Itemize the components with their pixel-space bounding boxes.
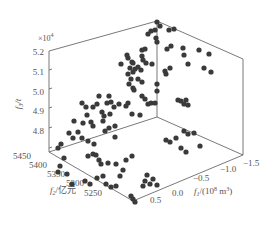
data-point: [113, 161, 118, 166]
data-point: [206, 51, 211, 56]
z-tick-5.0: 5.0: [33, 87, 45, 97]
data-point: [57, 163, 62, 168]
data-point: [127, 65, 132, 70]
data-point: [180, 45, 185, 50]
data-point: [201, 65, 206, 70]
data-point: [120, 167, 125, 172]
z-tick-4.9: 4.9: [33, 106, 45, 116]
data-point: [55, 169, 60, 174]
data-point: [185, 61, 190, 66]
data-point: [93, 152, 98, 157]
data-point: [183, 149, 188, 154]
data-point: [66, 130, 71, 135]
data-point: [83, 104, 88, 109]
data-point: [168, 43, 173, 48]
data-point: [71, 118, 76, 123]
data-point: [90, 123, 95, 128]
data-point: [87, 181, 92, 186]
data-point: [108, 184, 113, 189]
data-point: [142, 46, 147, 51]
z-tick-5.1: 5.1: [33, 67, 44, 77]
data-point: [106, 93, 111, 98]
data-point: [197, 143, 202, 148]
data-point: [101, 113, 106, 118]
data-point: [185, 131, 190, 136]
data-point: [104, 100, 109, 105]
data-point: [152, 27, 157, 32]
data-point: [116, 101, 121, 106]
data-point: [125, 71, 130, 76]
z-axis-ticks: 5.2 5.1 5.0 4.9 4.8 ×104 f3/t: [13, 32, 54, 148]
data-point: [100, 118, 105, 123]
data-point: [167, 139, 172, 144]
top-right-edge: [157, 21, 243, 59]
data-point: [107, 111, 112, 116]
x-axis-label: f1/(108 m3): [194, 186, 232, 197]
data-point: [70, 135, 75, 140]
y-tick-5400: 5400: [29, 160, 48, 170]
data-point: [112, 134, 117, 139]
data-point: [129, 59, 134, 64]
data-point: [64, 171, 69, 176]
data-point: [96, 93, 101, 98]
data-point: [183, 97, 188, 102]
data-point: [79, 100, 84, 105]
data-point: [140, 183, 145, 188]
data-point: [167, 65, 172, 70]
data-point: [85, 153, 90, 158]
data-point: [84, 112, 89, 117]
data-point: [163, 71, 168, 76]
x-axis-ticks: 0.5 0.0 −0.5 −1.0 −1.5 f1/(108 m3): [150, 158, 260, 205]
data-point: [61, 155, 66, 160]
data-point: [118, 61, 123, 66]
data-point: [191, 130, 196, 135]
data-point: [111, 104, 116, 109]
data-point: [154, 39, 159, 44]
data-point: [130, 85, 135, 90]
data-point: [79, 135, 84, 140]
data-point: [90, 104, 95, 109]
data-point: [154, 81, 159, 86]
data-point: [80, 120, 85, 125]
data-point: [154, 182, 159, 187]
data-point: [129, 153, 134, 158]
z-axis-label: f3/t: [13, 98, 24, 109]
data-point: [91, 141, 96, 146]
data-point: [145, 31, 150, 36]
data-point: [173, 135, 178, 140]
data-point: [126, 81, 131, 86]
data-point: [166, 27, 171, 32]
data-point: [152, 100, 157, 105]
x-tick-neg1.0: −1.0: [220, 164, 237, 174]
z-tick-4.8: 4.8: [33, 126, 45, 136]
x-tick-0.0: 0.0: [172, 188, 184, 198]
data-point: [178, 145, 183, 150]
data-point: [69, 181, 74, 186]
data-point: [112, 123, 117, 128]
data-point: [154, 88, 159, 93]
z-tick-5.2: 5.2: [33, 47, 44, 57]
data-point: [150, 176, 155, 181]
data-point: [208, 69, 213, 74]
floor-back-right-edge: [157, 117, 243, 155]
data-point: [196, 47, 201, 52]
data-point: [105, 160, 110, 165]
data-point: [142, 178, 147, 183]
data-point: [138, 67, 143, 72]
data-point: [55, 145, 60, 150]
data-point: [139, 93, 144, 98]
data-point: [113, 183, 118, 188]
data-point: [171, 26, 176, 31]
data-point: [125, 55, 130, 60]
data-point: [144, 172, 149, 177]
data-point: [123, 157, 128, 162]
data-point: [100, 173, 105, 178]
data-point: [129, 111, 134, 116]
data-point: [132, 199, 137, 204]
data-point: [147, 181, 152, 186]
data-point: [137, 112, 142, 117]
z-multiplier: ×104: [38, 32, 54, 43]
data-point: [103, 181, 108, 186]
data-point: [98, 161, 103, 166]
x-tick-neg1.5: −1.5: [243, 158, 260, 168]
